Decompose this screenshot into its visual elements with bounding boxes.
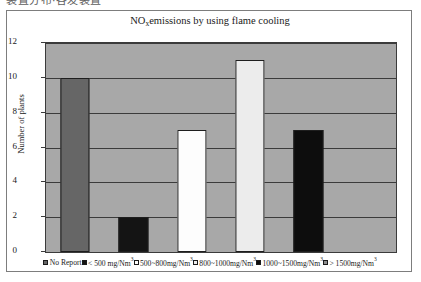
legend-item[interactable]: < 500 mg/Nm3: [82, 257, 134, 268]
legend-label: 500~800mg/Nm3: [140, 257, 193, 268]
figure-frame: NOxemissions by using flame cooling Numb…: [6, 10, 412, 272]
plot-area: [45, 42, 397, 253]
legend-swatch: [82, 260, 87, 265]
legend-swatch: [323, 260, 328, 265]
bar-slot: [279, 43, 337, 252]
bar-slot: [104, 43, 162, 252]
legend-item[interactable]: 1000~1500mg/Nm3: [256, 257, 323, 268]
legend-swatch: [193, 260, 198, 265]
legend-swatch: [43, 260, 48, 265]
bar[interactable]: [119, 217, 148, 252]
y-axis-tick-label: 6: [0, 142, 17, 151]
y-axis-tick-mark: [41, 251, 45, 252]
y-axis-tick-mark: [41, 42, 45, 43]
legend-label: 1000~1500mg/Nm3: [263, 257, 323, 268]
y-axis-tick-label: 2: [0, 211, 17, 220]
legend-label: > 1500mg/Nm3: [329, 257, 376, 268]
y-axis-title: Number of plants: [16, 64, 26, 184]
legend-swatch: [256, 260, 261, 265]
legend-label: < 500 mg/Nm3: [88, 257, 133, 268]
bar-slot: [338, 43, 396, 252]
y-axis-tick-mark: [41, 147, 45, 148]
y-axis-tick-mark: [41, 77, 45, 78]
legend-label-superscript: 3: [374, 256, 377, 262]
plot-inner: [46, 43, 396, 252]
legend-item[interactable]: > 1500mg/Nm3: [323, 257, 377, 268]
legend-label: No Report: [50, 259, 82, 267]
bar-slot: [221, 43, 279, 252]
cut-off-cjk-text: 装置分布·各发装置: [6, 0, 102, 7]
legend-swatch: [134, 260, 139, 265]
y-axis-tick-label: 8: [0, 107, 17, 116]
legend-item[interactable]: 500~800mg/Nm3: [134, 257, 193, 268]
y-axis-tick-label: 12: [0, 37, 17, 46]
y-axis-tick-label: 4: [0, 176, 17, 185]
chart-title: NOxemissions by using flame cooling: [7, 15, 413, 28]
legend-label: 800~1000mg/Nm3: [199, 257, 256, 268]
bar[interactable]: [177, 130, 206, 252]
chart-legend: No Report< 500 mg/Nm3500~800mg/Nm3800~10…: [7, 257, 413, 268]
bar-slot: [163, 43, 221, 252]
scanned-header-text-strip: 装置分布·各发装置: [0, 0, 421, 9]
bar[interactable]: [61, 78, 90, 252]
bar[interactable]: [236, 60, 265, 252]
bar[interactable]: [294, 130, 323, 252]
y-axis-tick-label: 10: [0, 72, 17, 81]
legend-item[interactable]: 800~1000mg/Nm3: [193, 257, 256, 268]
y-axis-tick-mark: [41, 181, 45, 182]
y-axis-tick-label: 0: [0, 246, 17, 255]
y-axis-tick-mark: [41, 216, 45, 217]
chart-title-rest: emissions by using flame cooling: [149, 15, 290, 26]
y-axis-tick-mark: [41, 112, 45, 113]
legend-item[interactable]: No Report: [43, 259, 81, 267]
chart-title-main: NO: [130, 15, 145, 26]
bar-slot: [46, 43, 104, 252]
